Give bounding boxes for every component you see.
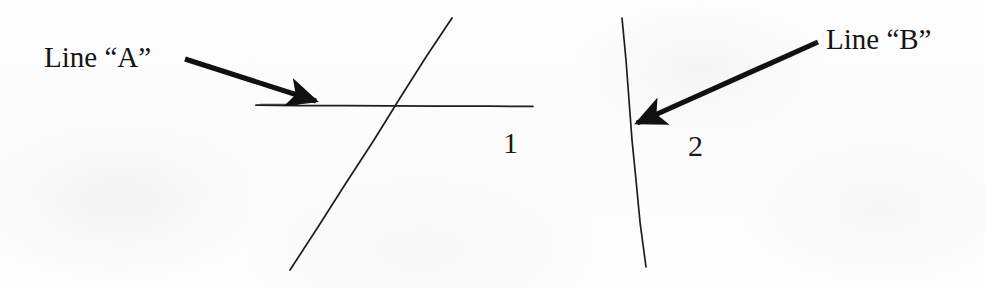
line-a-diagonal (290, 18, 452, 270)
figure-canvas: Line “A” Line “B” 1 2 (0, 0, 985, 288)
line-b-callout-label: Line “B” (826, 25, 931, 54)
callout-arrow-b (637, 42, 818, 123)
figure-number-2: 2 (688, 131, 703, 161)
callout-arrow-a (185, 59, 316, 101)
panel-2-group (622, 18, 818, 267)
figure-number-1: 1 (503, 128, 518, 158)
line-a-callout-label: Line “A” (44, 43, 151, 72)
line-b-vertical (622, 18, 646, 267)
panel-1-group (185, 18, 533, 270)
